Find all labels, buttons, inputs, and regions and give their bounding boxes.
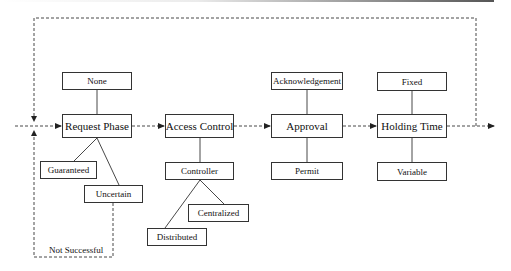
option-centralized-label: Centralized	[198, 208, 239, 218]
option-none-label: None	[87, 76, 107, 86]
phase-request: Request Phase	[62, 114, 132, 138]
option-fixed-label: Fixed	[402, 77, 423, 87]
phase-approval: Approval	[271, 114, 343, 138]
option-none: None	[62, 72, 132, 90]
phase-access-control-label: Access Control	[166, 120, 234, 132]
option-uncertain: Uncertain	[84, 185, 143, 203]
option-controller: Controller	[165, 162, 234, 180]
option-fixed: Fixed	[377, 72, 447, 91]
option-guaranteed: Guaranteed	[40, 161, 97, 179]
phase-holding-time-label: Holding Time	[381, 120, 442, 132]
option-distributed-label: Distributed	[157, 232, 198, 242]
option-acknowledgement: Acknowledgement	[271, 72, 343, 90]
option-centralized: Centralized	[188, 204, 249, 222]
phase-approval-label: Approval	[286, 120, 328, 132]
phase-holding-time: Holding Time	[377, 114, 447, 138]
option-permit-label: Permit	[295, 166, 319, 176]
not-successful-label: Not Successful	[49, 245, 103, 255]
option-permit: Permit	[271, 162, 343, 180]
option-variable-label: Variable	[397, 167, 427, 177]
option-uncertain-label: Uncertain	[96, 189, 131, 199]
option-controller-label: Controller	[181, 166, 218, 176]
option-distributed: Distributed	[147, 228, 207, 246]
option-acknowledgement-label: Acknowledgement	[273, 76, 341, 86]
option-guaranteed-label: Guaranteed	[48, 165, 89, 175]
phase-request-label: Request Phase	[65, 120, 129, 132]
phase-access-control: Access Control	[165, 114, 234, 138]
option-variable: Variable	[377, 162, 447, 181]
